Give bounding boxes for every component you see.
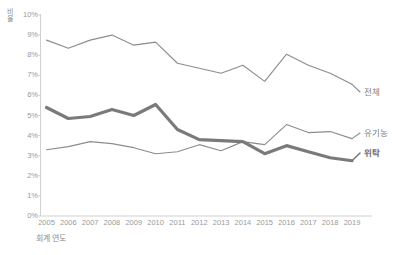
line-chart: 비율 10%9%8%7%6%5%4%3%2%1%0% 2005200620072… bbox=[0, 0, 401, 255]
series-line-2 bbox=[47, 104, 353, 160]
x-axis-tick-labels: 2005200620072008200920102011201220132014… bbox=[0, 218, 401, 230]
x-axis-title: 회계 연도 bbox=[36, 234, 66, 244]
series-label-1: 유기농 bbox=[364, 128, 388, 138]
plot-area bbox=[0, 0, 401, 255]
series-leader-2 bbox=[352, 153, 360, 161]
series-label-0: 전체 bbox=[364, 87, 380, 97]
series-line-0 bbox=[47, 35, 353, 84]
series-label-2: 위탁 bbox=[364, 148, 380, 158]
series-leader-0 bbox=[352, 84, 360, 92]
series-leader-1 bbox=[352, 133, 360, 139]
x-tick-label: 2019 bbox=[337, 218, 367, 227]
